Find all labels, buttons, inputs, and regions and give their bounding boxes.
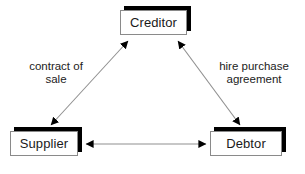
node-creditor-label: Creditor bbox=[130, 16, 177, 29]
node-creditor: Creditor bbox=[120, 10, 187, 35]
node-creditor-plate: Creditor bbox=[120, 10, 187, 35]
node-supplier-plate: Supplier bbox=[10, 131, 78, 156]
node-debtor-label: Debtor bbox=[226, 137, 266, 150]
diagram-canvas: Creditor Supplier Debtor contract of sal… bbox=[0, 0, 305, 174]
edge-label-contract-of-sale: contract of sale bbox=[14, 60, 98, 86]
node-debtor-plate: Debtor bbox=[210, 131, 282, 156]
edge-label-hire-purchase-agreement: hire purchase agreement bbox=[206, 60, 302, 86]
node-supplier: Supplier bbox=[10, 131, 78, 156]
node-debtor: Debtor bbox=[210, 131, 282, 156]
node-supplier-label: Supplier bbox=[20, 137, 69, 150]
